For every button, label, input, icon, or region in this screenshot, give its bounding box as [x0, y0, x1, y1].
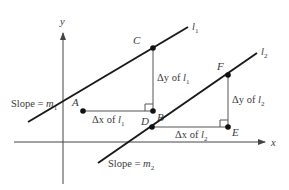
- point-c: [150, 45, 156, 51]
- point-d-label: D: [140, 115, 149, 127]
- x-axis: x: [14, 137, 276, 148]
- point-f: [225, 72, 231, 78]
- line-l1-label: l1: [192, 21, 199, 35]
- point-e-label: E: [231, 126, 239, 138]
- dy-label-l1: Δy of l1: [157, 72, 190, 86]
- slope-label-l1: Slope = m1: [11, 98, 58, 112]
- line-l2-label: l2: [261, 46, 268, 60]
- dy-label-l2: Δy of l2: [232, 94, 265, 108]
- point-c-label: C: [133, 34, 141, 46]
- x-axis-label: x: [270, 137, 276, 148]
- dx-label-l2: Δx of l2: [175, 129, 208, 143]
- slope-label-l2: Slope = m2: [108, 158, 155, 172]
- point-d: [149, 124, 155, 130]
- point-e: [225, 124, 231, 130]
- y-axis-label: y: [59, 16, 65, 27]
- slope-diagram: y x l1 A C B Δx of l1 Δy of l1 Slope = m…: [0, 0, 289, 190]
- point-a-label: A: [71, 96, 79, 108]
- point-f-label: F: [216, 60, 224, 72]
- point-a: [80, 108, 86, 114]
- point-b: [150, 108, 156, 114]
- dx-label-l1: Δx of l1: [92, 114, 125, 128]
